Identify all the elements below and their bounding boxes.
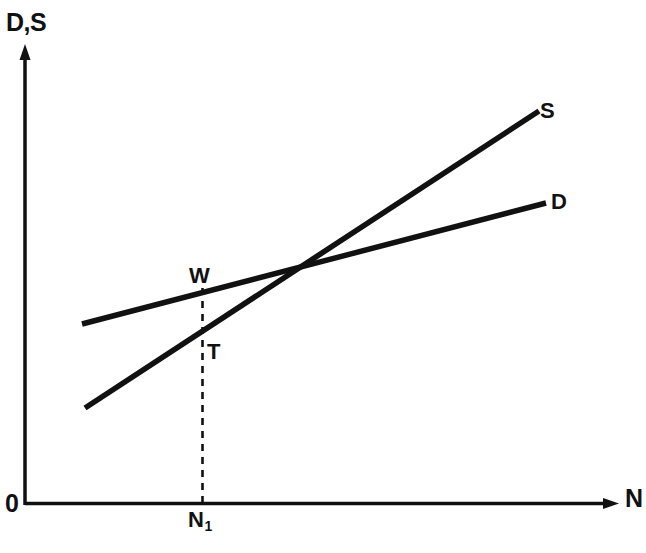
origin-label: 0 <box>5 491 19 516</box>
curve-label-s: S <box>540 100 555 122</box>
x-axis-label: N <box>625 486 643 511</box>
economics-diagram: D,S N 0 N1 W T S D <box>0 0 646 553</box>
curve-label-d: D <box>551 191 567 213</box>
x-axis <box>25 498 619 509</box>
y-axis-label: D,S <box>6 10 46 35</box>
n1-base: N <box>188 507 204 532</box>
supply-curve <box>85 111 539 408</box>
point-label-t: T <box>207 341 220 363</box>
x-tick-label-n1: N1 <box>188 509 212 531</box>
y-axis <box>20 44 31 505</box>
demand-curve <box>82 203 546 324</box>
n1-subscript: 1 <box>204 518 212 534</box>
diagram-canvas <box>0 0 646 553</box>
point-label-w: W <box>189 265 210 287</box>
